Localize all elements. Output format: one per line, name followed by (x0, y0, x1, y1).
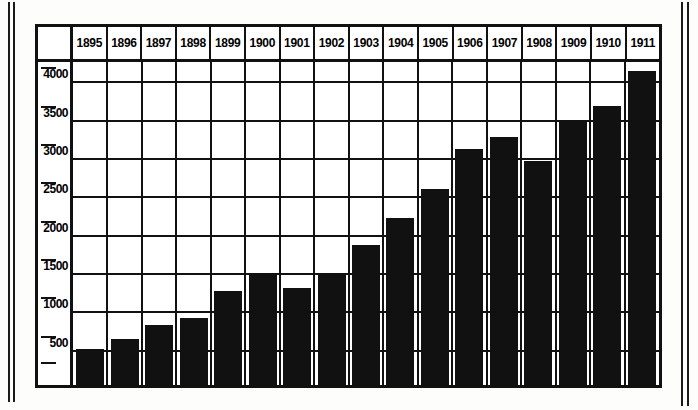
year-header-cell: 1907 (488, 27, 523, 59)
year-header-cell: 1898 (177, 27, 212, 59)
bar-slot (556, 62, 590, 385)
year-header-cell: 1909 (557, 27, 592, 59)
y-axis-label: 2000 (35, 221, 69, 235)
bar-slot (418, 62, 452, 385)
bar-slot (142, 62, 176, 385)
bar (559, 122, 587, 385)
year-header-row: 1895189618971898189919001901190219031904… (38, 27, 659, 62)
y-axis-label: 1500 (35, 259, 69, 273)
bar-slot (521, 62, 555, 385)
year-header-cell: 1910 (592, 27, 627, 59)
bar (111, 339, 139, 385)
bar (283, 288, 311, 385)
bar-slot (280, 62, 314, 385)
chart-body: 4000350030002500200015001000500 (38, 62, 659, 385)
page-border-left-inner (13, 2, 15, 402)
year-header-cell: 1900 (246, 27, 281, 59)
bar-slot (107, 62, 141, 385)
bar (524, 161, 552, 385)
bar (318, 275, 346, 385)
y-axis-label: 3500 (35, 106, 69, 120)
bar-slot (211, 62, 245, 385)
bar (145, 325, 173, 385)
bar (214, 291, 242, 385)
bar-slot (487, 62, 521, 385)
year-header-cell: 1902 (315, 27, 350, 59)
year-header-cell: 1896 (108, 27, 143, 59)
y-axis-label: 4000 (35, 67, 69, 81)
year-header-cell: 1895 (73, 27, 108, 59)
bar-slot (349, 62, 383, 385)
bar (490, 137, 518, 385)
header-corner-cell (38, 27, 73, 59)
bar (76, 349, 104, 385)
bar-slot (383, 62, 417, 385)
y-axis-label: 500 (35, 336, 69, 350)
y-axis-label: 3000 (35, 144, 69, 158)
y-axis-column: 4000350030002500200015001000500 (38, 62, 73, 385)
bar-slot (73, 62, 107, 385)
y-axis-tick-baseline (41, 362, 56, 364)
bar (593, 106, 621, 385)
bar-slot (452, 62, 486, 385)
page-border-right-outer (681, 2, 683, 406)
bar-slot (176, 62, 210, 385)
plot-area (73, 62, 659, 385)
bar (352, 245, 380, 385)
year-header-cell: 1911 (627, 27, 660, 59)
page-border-left-outer (8, 2, 10, 402)
bar (455, 149, 483, 385)
bar-slot (625, 62, 659, 385)
year-header-cell: 1903 (350, 27, 385, 59)
year-header-cell: 1908 (523, 27, 558, 59)
year-header-cell: 1897 (142, 27, 177, 59)
bar-slot (314, 62, 348, 385)
year-header-cell: 1899 (211, 27, 246, 59)
bar (386, 218, 414, 385)
y-axis-label: 1000 (35, 297, 69, 311)
bar-slot (245, 62, 279, 385)
bar (421, 189, 449, 385)
bar (249, 275, 277, 385)
bar-slot (590, 62, 624, 385)
chart-frame: 1895189618971898189919001901190219031904… (35, 24, 662, 388)
y-axis-label: 2500 (35, 182, 69, 196)
year-header-cell: 1906 (454, 27, 489, 59)
bar-series (73, 62, 659, 385)
page-border-right-inner (687, 2, 689, 406)
year-header-cell: 1901 (281, 27, 316, 59)
year-header-cells: 1895189618971898189919001901190219031904… (73, 27, 659, 59)
bar (180, 318, 208, 386)
year-header-cell: 1905 (419, 27, 454, 59)
year-header-cell: 1904 (384, 27, 419, 59)
bar (628, 71, 656, 385)
chart-page: 1895189618971898189919001901190219031904… (0, 0, 698, 410)
